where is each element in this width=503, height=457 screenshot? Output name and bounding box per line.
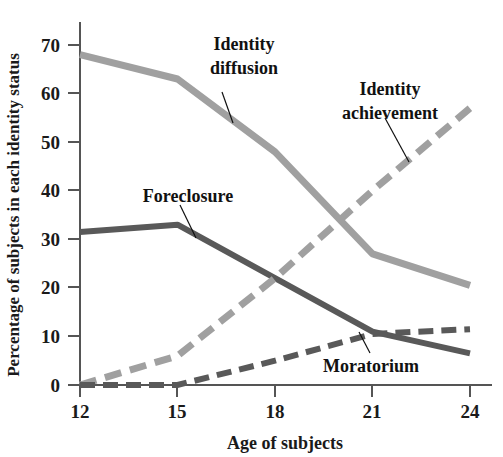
x-tick-label-15: 15 (168, 401, 187, 422)
x-tick-label-18: 18 (266, 401, 285, 422)
y-tick-label-20: 20 (41, 277, 60, 298)
label-identity-diffusion-line1: Identity (213, 34, 274, 54)
x-tick-label-24: 24 (461, 401, 481, 422)
y-tick-label-10: 10 (41, 326, 60, 347)
label-foreclosure: Foreclosure (143, 186, 233, 206)
label-moratorium: Moratorium (323, 356, 419, 376)
label-identity-achievement-line2: achievement (342, 103, 438, 123)
y-tick-label-40: 40 (41, 180, 60, 201)
x-tick-label-12: 12 (71, 401, 90, 422)
y-tick-label-70: 70 (41, 35, 60, 56)
y-tick-label-0: 0 (51, 375, 61, 396)
y-tick-label-30: 30 (41, 229, 60, 250)
label-identity-diffusion-line2: diffusion (210, 58, 278, 78)
chart-page: 70 60 50 40 30 20 10 0 12 15 18 21 24 Pe… (0, 0, 503, 457)
identity-status-line-chart: 70 60 50 40 30 20 10 0 12 15 18 21 24 Pe… (0, 0, 503, 457)
y-axis-title: Percentage of subjects in each identity … (4, 53, 23, 377)
x-tick-label-21: 21 (363, 401, 382, 422)
x-axis-title: Age of subjects (227, 433, 343, 453)
y-tick-label-50: 50 (41, 132, 60, 153)
label-identity-achievement-line1: Identity (359, 79, 420, 99)
y-tick-label-60: 60 (41, 83, 60, 104)
